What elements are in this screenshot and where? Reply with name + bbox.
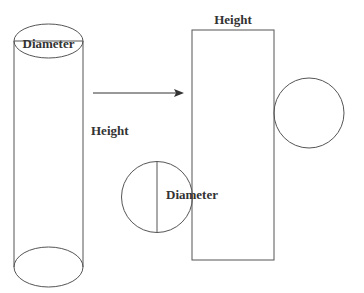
cylinder (14, 24, 83, 287)
cylinder-bottom-ellipse (14, 247, 83, 287)
net-height-label: Height (214, 12, 252, 27)
cylinder-net-diagram: Diameter Height Height Diameter (0, 0, 364, 293)
net-diameter-label: Diameter (166, 187, 218, 202)
cylinder-diameter-label: Diameter (23, 36, 75, 51)
cylinder-height-label: Height (91, 123, 129, 138)
net-circle-right (274, 78, 344, 148)
net-rectangle (192, 30, 274, 260)
transform-arrow (93, 89, 184, 97)
cylinder-net (122, 30, 345, 260)
